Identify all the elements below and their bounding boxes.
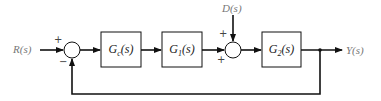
sum1-plus-sign: + [54, 34, 62, 45]
block-gc-label: Gc(s) [101, 42, 141, 58]
sum1-minus-sign: − [59, 56, 67, 67]
sum2-plus-sign-bottom: + [217, 54, 225, 65]
disturbance-label: D(s) [222, 2, 242, 14]
block-g1-label: G1(s) [162, 42, 202, 58]
output-label: Y(s) [346, 44, 364, 56]
sum2-plus-sign-top: + [219, 28, 227, 39]
pickoff-point [318, 48, 322, 52]
block-g2-label: G2(s) [262, 42, 301, 58]
input-label: R(s) [13, 43, 31, 55]
summing-junction-2 [225, 42, 241, 58]
